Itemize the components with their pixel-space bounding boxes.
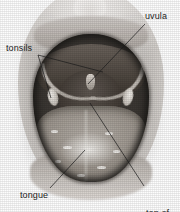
label-uvula: uvula xyxy=(145,11,167,22)
leader-line-top-of-pharynx xyxy=(90,103,144,186)
leader-line-tongue xyxy=(50,150,85,188)
leader-line-uvula xyxy=(88,24,145,84)
leader-line-tonsil-right xyxy=(38,55,103,72)
leader-lines xyxy=(0,0,180,212)
leader-line-tonsil-left xyxy=(38,55,51,98)
label-tongue: tongue xyxy=(20,190,48,201)
label-tonsils: tonsils xyxy=(6,43,32,54)
label-top-of-pharynx: top of pharynx xyxy=(146,187,179,212)
mouth-anatomy-figure: uvula tonsils tongue top of pharynx xyxy=(0,0,180,212)
label-top-of-pharynx-line1: top of xyxy=(146,208,179,212)
